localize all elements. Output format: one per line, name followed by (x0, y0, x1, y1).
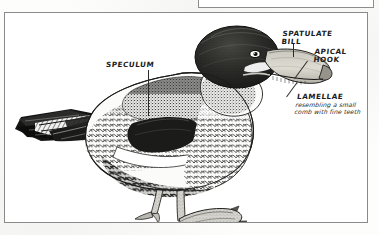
annotation-spatulate-bill: SPATULATE BILL (281, 30, 333, 46)
duck-eye (250, 50, 260, 57)
leader-line-speculum (148, 70, 149, 116)
figure-frame: SPECULUM SPATULATE BILL APICAL HOOK LAME… (4, 12, 368, 223)
top-partial-box (198, 0, 374, 8)
annotation-lamellae-title: LAMELLAE (297, 93, 344, 101)
annotation-lamellae-description: resembling a small comb with fine teeth (294, 102, 362, 116)
annotation-apical-hook: APICAL HOOK (313, 48, 347, 64)
annotation-speculum: SPECULUM (106, 61, 155, 69)
scanned-page: SPECULUM SPATULATE BILL APICAL HOOK LAME… (0, 0, 379, 235)
